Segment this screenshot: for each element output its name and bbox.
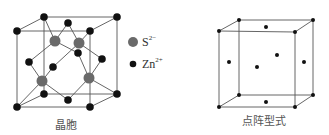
legend-s-marker <box>128 37 138 47</box>
legend-zn-label: Zn2+ <box>142 56 163 72</box>
left-caption: 晶胞 <box>55 116 77 132</box>
s-ion <box>37 76 48 87</box>
s-ion <box>50 36 61 47</box>
ion-symbol: Zn <box>142 57 155 71</box>
s-ions <box>37 36 95 87</box>
s-ion <box>84 73 95 84</box>
legend-zn-marker <box>130 61 137 68</box>
ion-symbol: S <box>142 35 149 49</box>
legend-s-label: S2− <box>142 34 156 50</box>
ion-charge: 2− <box>149 34 156 42</box>
right-caption: 点阵型式 <box>242 112 286 128</box>
zn-ions <box>13 13 121 111</box>
s-ion <box>74 38 85 49</box>
ion-charge: 2+ <box>155 56 162 64</box>
lattice-edges <box>219 20 313 107</box>
